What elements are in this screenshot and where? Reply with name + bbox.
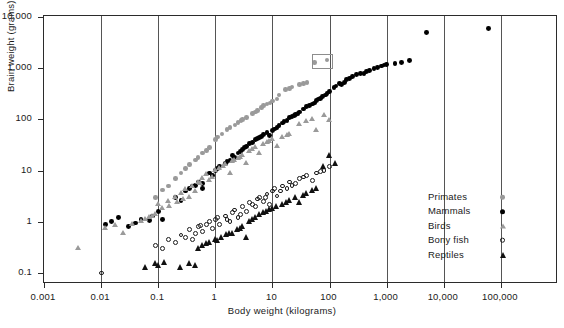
- data-point-mammals: [393, 61, 398, 66]
- data-point-mammals: [334, 84, 339, 89]
- data-point-primates: [261, 103, 266, 108]
- legend: PrimatesMammalsBirdsBony fishReptiles: [428, 190, 528, 262]
- data-point-reptiles: [186, 260, 192, 266]
- y-tick: [38, 222, 44, 223]
- legend-item-mammals[interactable]: Mammals: [428, 204, 528, 218]
- y-tick-label: 10,000: [0, 10, 32, 21]
- data-point-reptiles: [214, 237, 220, 243]
- data-point-birds: [313, 127, 319, 132]
- data-point-primates: [253, 110, 258, 115]
- gridline-x: [272, 16, 273, 282]
- data-point-birds: [209, 174, 215, 179]
- data-point-birds: [309, 116, 315, 121]
- data-point-reptiles: [326, 152, 332, 158]
- data-point-birds: [227, 170, 233, 175]
- data-point-reptiles: [192, 262, 198, 268]
- data-point-birds: [274, 143, 280, 148]
- data-point-bony-fish: [275, 194, 280, 199]
- data-point-bony-fish: [173, 240, 178, 245]
- data-point-mammals: [407, 58, 412, 63]
- x-tick: [501, 282, 502, 288]
- data-point-mammals: [160, 217, 165, 222]
- data-point-bony-fish: [290, 183, 295, 188]
- data-point-bony-fish: [153, 243, 158, 248]
- data-point-reptiles: [320, 163, 326, 169]
- data-point-birds: [159, 205, 165, 210]
- data-point-primates: [183, 166, 188, 171]
- data-point-birds: [197, 180, 203, 185]
- data-point-mammals: [259, 134, 264, 139]
- data-point-birds: [192, 188, 198, 193]
- x-tick: [387, 282, 388, 288]
- data-point-mammals: [347, 76, 352, 81]
- data-point-reptiles: [332, 160, 338, 166]
- data-point-primates: [236, 120, 241, 125]
- data-point-birds: [182, 186, 188, 191]
- data-point-reptiles: [155, 262, 161, 268]
- data-point-primates: [187, 162, 192, 167]
- data-point-mammals: [200, 186, 205, 191]
- data-point-bony-fish: [207, 219, 212, 224]
- data-point-birds: [199, 175, 205, 180]
- legend-label: Primates: [428, 190, 467, 204]
- data-point-bony-fish: [285, 186, 290, 191]
- x-tick: [330, 282, 331, 288]
- legend-item-birds[interactable]: Birds: [428, 219, 528, 233]
- data-point-primates: [268, 101, 273, 106]
- x-tick: [44, 282, 45, 288]
- data-point-mammals: [312, 101, 317, 106]
- legend-item-primates[interactable]: Primates: [428, 190, 528, 204]
- data-point-birds: [266, 138, 272, 143]
- y-tick: [38, 68, 44, 69]
- legend-item-bony-fish[interactable]: Bony fish: [428, 233, 528, 247]
- data-point-primates: [166, 184, 171, 189]
- primate-annotation-box: [312, 54, 334, 69]
- data-point-mammals: [486, 26, 491, 31]
- legend-item-reptiles[interactable]: Reptiles: [428, 248, 528, 262]
- data-point-primates: [196, 155, 201, 160]
- y-tick: [38, 273, 44, 274]
- data-point-birds: [166, 203, 172, 208]
- y-tick-label: 100: [0, 112, 32, 123]
- data-point-reptiles: [142, 264, 148, 270]
- gridline-x: [387, 16, 388, 282]
- data-point-bony-fish: [240, 204, 245, 209]
- data-point-reptiles: [313, 185, 319, 191]
- x-tick: [101, 282, 102, 288]
- legend-label: Reptiles: [428, 248, 464, 262]
- legend-label: Mammals: [428, 204, 471, 218]
- data-point-bony-fish: [217, 222, 222, 227]
- data-point-primates: [301, 81, 306, 86]
- data-point-primates: [228, 125, 233, 130]
- y-tick: [38, 17, 44, 18]
- legend-label: Birds: [428, 219, 451, 233]
- data-point-mammals: [339, 82, 344, 87]
- y-axis-title: Brain weight (grams): [4, 78, 18, 92]
- data-point-mammals: [272, 127, 277, 132]
- data-point-bony-fish: [272, 186, 277, 191]
- data-point-primates: [179, 171, 184, 176]
- x-tick-label: 100,000: [460, 291, 540, 302]
- data-point-primates: [153, 195, 158, 200]
- y-tick-label: 1: [0, 215, 32, 226]
- data-point-primates: [173, 176, 178, 181]
- data-point-birds: [186, 194, 192, 199]
- x-tick: [444, 282, 445, 288]
- gridline-x: [158, 16, 159, 282]
- data-point-bony-fish: [99, 271, 104, 276]
- data-point-bony-fish: [183, 235, 188, 240]
- data-point-reptiles: [300, 192, 306, 198]
- y-tick-label: 10: [0, 164, 32, 175]
- data-point-bony-fish: [310, 178, 315, 183]
- data-point-birds: [220, 163, 226, 168]
- data-point-reptiles: [203, 240, 209, 246]
- y-tick-label: 0.1: [0, 266, 32, 277]
- data-point-birds: [243, 160, 249, 165]
- gridline-x: [101, 16, 102, 282]
- data-point-primates: [220, 132, 225, 137]
- data-point-birds: [112, 222, 118, 227]
- data-point-mammals: [277, 123, 282, 128]
- data-point-bony-fish: [160, 246, 165, 251]
- data-point-bony-fish: [263, 195, 268, 200]
- data-point-reptiles: [296, 199, 302, 205]
